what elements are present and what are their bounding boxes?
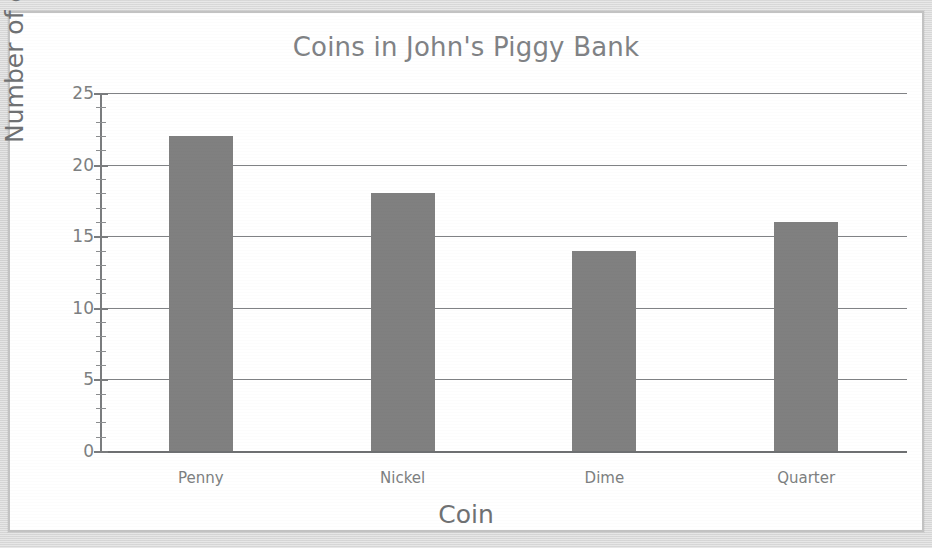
y-axis-minor-tick bbox=[96, 322, 106, 323]
y-axis-minor-tick bbox=[96, 150, 106, 151]
x-axis-tick-label: Quarter bbox=[746, 469, 866, 487]
y-axis-major-tick bbox=[94, 379, 108, 381]
y-axis-minor-tick bbox=[96, 107, 106, 108]
x-axis-tick-label: Dime bbox=[544, 469, 664, 487]
y-axis-major-tick bbox=[94, 308, 108, 310]
y-axis-minor-tick bbox=[96, 293, 106, 294]
y-axis-minor-tick bbox=[96, 422, 106, 423]
y-axis-tick-label: 15 bbox=[48, 226, 94, 246]
y-axis-minor-tick bbox=[96, 279, 106, 280]
y-axis-minor-tick bbox=[96, 365, 106, 366]
y-axis-tick-label: 25 bbox=[48, 83, 94, 103]
y-axis-minor-tick bbox=[96, 394, 106, 395]
x-axis-tick-label: Penny bbox=[141, 469, 261, 487]
y-axis-tick-label: 10 bbox=[48, 298, 94, 318]
y-axis-tick-label: 5 bbox=[48, 369, 94, 389]
y-axis-minor-tick bbox=[96, 193, 106, 194]
y-axis-tick-label: 20 bbox=[48, 155, 94, 175]
y-axis-minor-tick bbox=[96, 222, 106, 223]
y-axis-tick-label: 0 bbox=[48, 441, 94, 461]
bar bbox=[371, 193, 435, 451]
y-axis-minor-tick bbox=[96, 208, 106, 209]
y-axis-minor-tick bbox=[96, 437, 106, 438]
y-axis-title: Number of coins bbox=[0, 0, 29, 143]
chart-title: Coins in John's Piggy Bank bbox=[10, 32, 922, 62]
x-axis-baseline bbox=[100, 451, 907, 453]
y-axis-minor-tick bbox=[96, 336, 106, 337]
plot-area bbox=[100, 93, 907, 451]
y-axis-minor-tick bbox=[96, 179, 106, 180]
y-axis-major-tick bbox=[94, 451, 108, 453]
y-axis-major-tick bbox=[94, 165, 108, 167]
y-axis-minor-tick bbox=[96, 351, 106, 352]
y-axis-major-tick bbox=[94, 236, 108, 238]
bar bbox=[169, 136, 233, 451]
y-axis-minor-tick bbox=[96, 408, 106, 409]
bar bbox=[774, 222, 838, 451]
y-axis-minor-tick bbox=[96, 265, 106, 266]
y-axis-tick-labels: 0510152025 bbox=[32, 13, 94, 534]
y-axis-minor-tick bbox=[96, 136, 106, 137]
y-axis-minor-tick bbox=[96, 122, 106, 123]
chart-container: Coins in John's Piggy Bank Number of coi… bbox=[8, 11, 924, 532]
bar bbox=[572, 251, 636, 451]
x-axis-title: Coin bbox=[10, 500, 922, 529]
x-axis-tick-label: Nickel bbox=[343, 469, 463, 487]
y-axis-major-tick bbox=[94, 93, 108, 95]
gridline bbox=[100, 93, 907, 94]
y-axis-minor-tick bbox=[96, 251, 106, 252]
